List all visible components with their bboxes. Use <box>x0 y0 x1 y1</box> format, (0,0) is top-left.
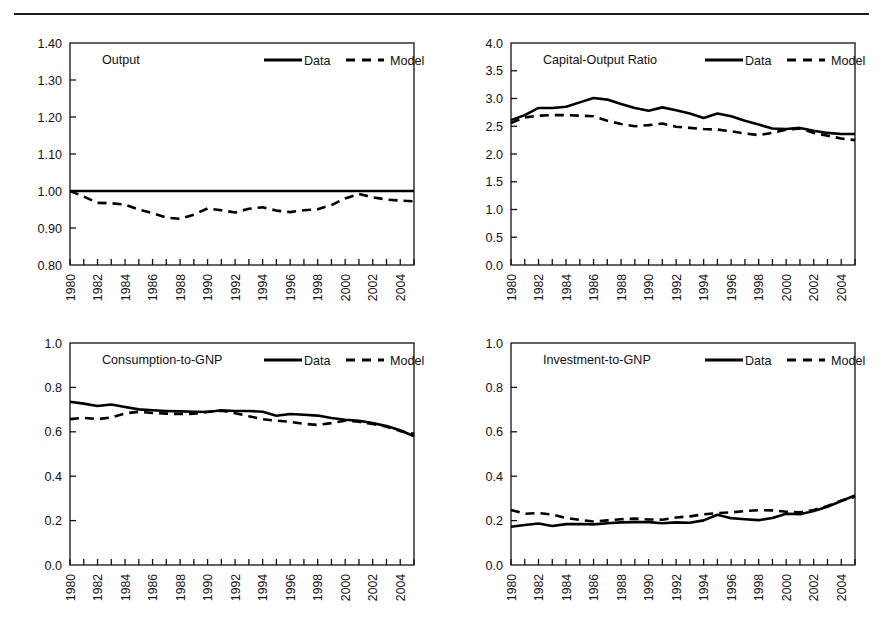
x-tick-label: 2000 <box>339 574 353 601</box>
panel-title: Output <box>102 53 140 67</box>
y-tick-label: 1.0 <box>485 337 503 351</box>
series-line-model <box>511 497 855 522</box>
y-tick-label: 2.0 <box>485 148 503 162</box>
x-tick-label: 1982 <box>91 274 105 301</box>
y-tick-label: 1.5 <box>485 175 503 189</box>
figure-container: 0.800.901.001.101.201.301.40198019821984… <box>0 0 883 627</box>
x-tick-label: 1984 <box>119 274 133 301</box>
legend-label-data: Data <box>745 354 772 368</box>
y-tick-label: 2.5 <box>485 120 503 134</box>
x-tick-label: 1982 <box>532 574 546 601</box>
x-tick-label: 1990 <box>642 574 656 601</box>
x-tick-label: 2002 <box>366 574 380 601</box>
x-tick-label: 1996 <box>284 274 298 301</box>
panel-consumption-to-gnp: 0.00.20.40.60.81.01980198219841986198819… <box>14 328 428 618</box>
y-tick-label: 0.5 <box>485 231 503 245</box>
x-tick-label: 2000 <box>780 274 794 301</box>
y-tick-label: 1.0 <box>485 203 503 217</box>
panel-investment-to-gnp: 0.00.20.40.60.81.01980198219841986198819… <box>455 328 869 618</box>
x-tick-label: 2002 <box>807 274 821 301</box>
y-tick-label: 0.2 <box>44 514 62 528</box>
x-tick-label: 1990 <box>642 274 656 301</box>
axes-frame <box>511 43 855 265</box>
y-tick-label: 1.30 <box>37 74 62 88</box>
x-tick-label: 1996 <box>284 574 298 601</box>
x-tick-label: 2000 <box>780 574 794 601</box>
chart-svg-2: 0.00.20.40.60.81.01980198219841986198819… <box>14 328 428 618</box>
y-tick-label: 1.0 <box>44 337 62 351</box>
x-tick-label: 1990 <box>201 574 215 601</box>
y-tick-label: 0.4 <box>44 470 62 484</box>
x-tick-label: 1998 <box>311 274 325 301</box>
x-tick-label: 1980 <box>64 274 78 301</box>
panel-capital-output-ratio: 0.00.51.01.52.02.53.03.54.01980198219841… <box>455 28 869 318</box>
x-tick-label: 1998 <box>752 574 766 601</box>
legend-label-data: Data <box>304 354 331 368</box>
x-tick-label: 1986 <box>146 574 160 601</box>
x-tick-label: 1988 <box>615 574 629 601</box>
x-tick-label: 1988 <box>615 274 629 301</box>
y-tick-label: 0.0 <box>485 559 503 573</box>
x-tick-label: 2002 <box>807 574 821 601</box>
x-tick-label: 2004 <box>394 574 408 601</box>
panel-title: Capital-Output Ratio <box>543 53 657 67</box>
legend-label-model: Model <box>390 54 424 68</box>
legend-label-model: Model <box>831 354 865 368</box>
x-tick-label: 1994 <box>697 574 711 601</box>
x-tick-label: 1984 <box>119 574 133 601</box>
x-tick-label: 1992 <box>670 574 684 601</box>
x-tick-label: 1992 <box>670 274 684 301</box>
chart-svg-3: 0.00.20.40.60.81.01980198219841986198819… <box>455 328 869 618</box>
x-tick-label: 2004 <box>835 574 849 601</box>
legend: DataModel <box>705 54 865 68</box>
y-tick-label: 0.6 <box>485 425 503 439</box>
legend: DataModel <box>264 54 424 68</box>
panel-title: Investment-to-GNP <box>543 353 651 367</box>
y-tick-label: 0.8 <box>44 381 62 395</box>
y-tick-label: 0.2 <box>485 514 503 528</box>
header-divider-rule <box>14 13 869 15</box>
panel-output: 0.800.901.001.101.201.301.40198019821984… <box>14 28 428 318</box>
y-tick-label: 0.8 <box>485 381 503 395</box>
panel-title: Consumption-to-GNP <box>102 353 222 367</box>
axes-frame <box>511 343 855 565</box>
x-tick-label: 1992 <box>229 274 243 301</box>
x-tick-label: 1988 <box>174 574 188 601</box>
x-tick-label: 1994 <box>256 274 270 301</box>
y-tick-label: 3.0 <box>485 92 503 106</box>
x-tick-label: 1986 <box>587 574 601 601</box>
x-tick-label: 1996 <box>725 574 739 601</box>
y-tick-label: 4.0 <box>485 37 503 51</box>
y-tick-label: 1.20 <box>37 111 62 125</box>
series-line-model <box>70 191 414 219</box>
y-tick-label: 0.0 <box>44 559 62 573</box>
chart-svg-0: 0.800.901.001.101.201.301.40198019821984… <box>14 28 428 318</box>
y-tick-label: 1.10 <box>37 148 62 162</box>
series-line-data <box>511 496 855 527</box>
x-tick-label: 1996 <box>725 274 739 301</box>
axes-frame <box>70 343 414 565</box>
x-tick-label: 2002 <box>366 274 380 301</box>
x-tick-label: 1980 <box>64 574 78 601</box>
series-line-data <box>70 402 414 436</box>
legend-label-data: Data <box>304 54 331 68</box>
y-tick-label: 1.40 <box>37 37 62 51</box>
y-tick-label: 3.5 <box>485 64 503 78</box>
y-tick-label: 0.6 <box>44 425 62 439</box>
x-tick-label: 1994 <box>697 274 711 301</box>
x-tick-label: 1984 <box>560 574 574 601</box>
x-tick-label: 1986 <box>587 274 601 301</box>
y-tick-label: 0.90 <box>37 222 62 236</box>
legend-label-model: Model <box>831 54 865 68</box>
x-tick-label: 1992 <box>229 574 243 601</box>
legend-label-model: Model <box>390 354 424 368</box>
y-tick-label: 1.00 <box>37 185 62 199</box>
chart-svg-1: 0.00.51.01.52.02.53.03.54.01980198219841… <box>455 28 869 318</box>
x-tick-label: 1984 <box>560 274 574 301</box>
x-tick-label: 1980 <box>505 574 519 601</box>
legend: DataModel <box>264 354 424 368</box>
x-tick-label: 2004 <box>835 274 849 301</box>
legend: DataModel <box>705 354 865 368</box>
x-tick-label: 1990 <box>201 274 215 301</box>
axes-frame <box>70 43 414 265</box>
